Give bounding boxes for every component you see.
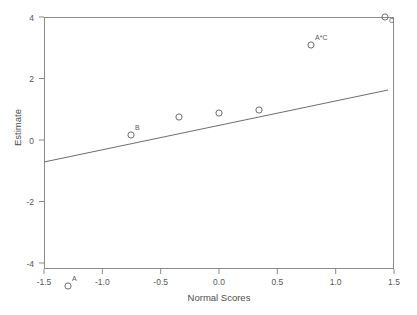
- data-point-markers: [65, 14, 388, 289]
- point-label-a: A: [72, 275, 77, 282]
- data-point-b[interactable]: [128, 132, 134, 138]
- y-tick-label--4: -4: [4, 259, 34, 269]
- plot-canvas: [0, 0, 417, 315]
- data-point-4[interactable]: [216, 110, 222, 116]
- point-label-c: C: [389, 17, 394, 24]
- data-point-a-star-c[interactable]: [308, 42, 314, 48]
- y-tick-label--2: -2: [4, 197, 34, 207]
- x-tick-label-1.5: 1.5: [374, 277, 414, 287]
- data-point-a[interactable]: [65, 283, 71, 289]
- data-point-5[interactable]: [256, 107, 262, 113]
- reference-line: [44, 90, 388, 162]
- x-tick-label-0.5: 0.5: [257, 277, 297, 287]
- y-tick-label-4: 4: [4, 13, 34, 23]
- data-point-3[interactable]: [176, 114, 182, 120]
- x-tick-label--0.5: -0.5: [141, 277, 181, 287]
- point-label-b: B: [135, 124, 140, 131]
- normal-probability-plot-figure: · · · ·: [0, 0, 417, 315]
- x-tick-label--1.0: -1.0: [82, 277, 122, 287]
- point-label-a-star-c: A*C: [315, 34, 327, 41]
- y-axis-title: Estimate: [12, 83, 23, 173]
- y-axis-ticks: [39, 17, 44, 263]
- x-tick-label-0.0: 0.0: [199, 277, 239, 287]
- x-tick-label-1.0: 1.0: [316, 277, 356, 287]
- x-axis-ticks: [44, 269, 394, 274]
- x-axis-title: Normal Scores: [44, 292, 394, 303]
- x-tick-label--1.5: -1.5: [24, 277, 64, 287]
- data-point-c[interactable]: [382, 14, 388, 20]
